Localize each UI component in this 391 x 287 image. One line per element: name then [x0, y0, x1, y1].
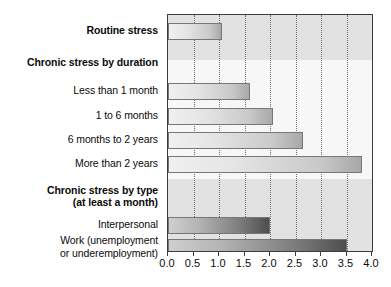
x-tick-mark-2.0	[269, 251, 270, 256]
bar-7	[168, 217, 270, 234]
x-tick-mark-3.0	[320, 251, 321, 256]
category-label-8: Work (unemployment or underemployment)	[60, 234, 158, 259]
category-label-0: Routine stress	[86, 24, 158, 37]
gridline-3.5	[347, 15, 348, 251]
x-tick-mark-4.0	[371, 251, 372, 256]
category-label-column: Routine stressChronic stress by duration…	[0, 14, 163, 250]
x-axis: 0.00.51.01.52.02.53.03.54.0	[167, 251, 371, 281]
bar-0	[168, 23, 222, 40]
plot-area	[167, 14, 373, 252]
category-label-5: More than 2 years	[75, 157, 158, 170]
x-tick-mark-1.0	[218, 251, 219, 256]
bar-5	[168, 156, 362, 173]
category-label-1: Chronic stress by duration	[27, 56, 158, 69]
x-tick-mark-3.5	[346, 251, 347, 256]
category-label-3: 1 to 6 months	[96, 109, 158, 122]
category-label-7: Interpersonal	[98, 218, 158, 231]
bar-chart-figure: Routine stressChronic stress by duration…	[0, 0, 391, 287]
bar-2	[168, 83, 250, 100]
category-label-2: Less than 1 month	[73, 84, 158, 97]
x-tick-mark-0.5	[193, 251, 194, 256]
x-tick-mark-1.5	[244, 251, 245, 256]
x-tick-label-4.0: 4.0	[356, 257, 386, 269]
x-tick-mark-2.5	[295, 251, 296, 256]
bar-4	[168, 132, 303, 149]
bar-3	[168, 108, 273, 125]
gridline-3.0	[321, 15, 322, 251]
category-label-6: Chronic stress by type (at least a month…	[47, 184, 158, 209]
x-tick-mark-0.0	[167, 251, 168, 256]
category-label-4: 6 months to 2 years	[68, 133, 158, 146]
